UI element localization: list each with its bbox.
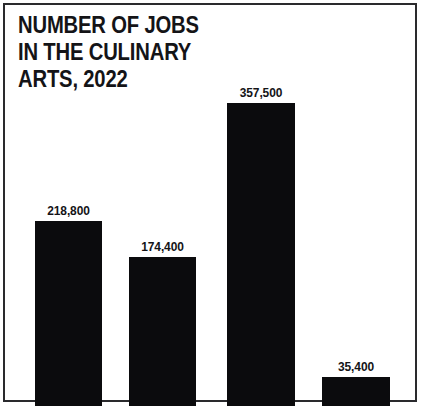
bar-baker <box>35 221 102 406</box>
bar-value-food-service-manager: 357,500 <box>230 85 293 100</box>
bar-group-chef: 174,400 Chef <box>129 61 196 406</box>
chart-figure: NUMBER OF JOBS IN THE CULINARY ARTS, 202… <box>0 0 421 406</box>
bar-food-service-manager <box>227 103 295 406</box>
plot-area: 218,800 Baker 174,400 Chef 357,500 Food … <box>0 0 421 406</box>
bar-value-baker: 218,800 <box>38 203 100 218</box>
bar-group-food-scientist: 35,400 Food Scientist or Technologist <box>322 61 390 406</box>
bar-food-scientist <box>322 377 390 406</box>
bar-value-food-scientist: 35,400 <box>325 359 388 374</box>
bar-chef <box>129 257 196 406</box>
bar-group-baker: 218,800 Baker <box>35 61 102 406</box>
bar-value-chef: 174,400 <box>132 239 194 254</box>
bar-group-food-service-manager: 357,500 Food Service Manager <box>227 61 295 406</box>
